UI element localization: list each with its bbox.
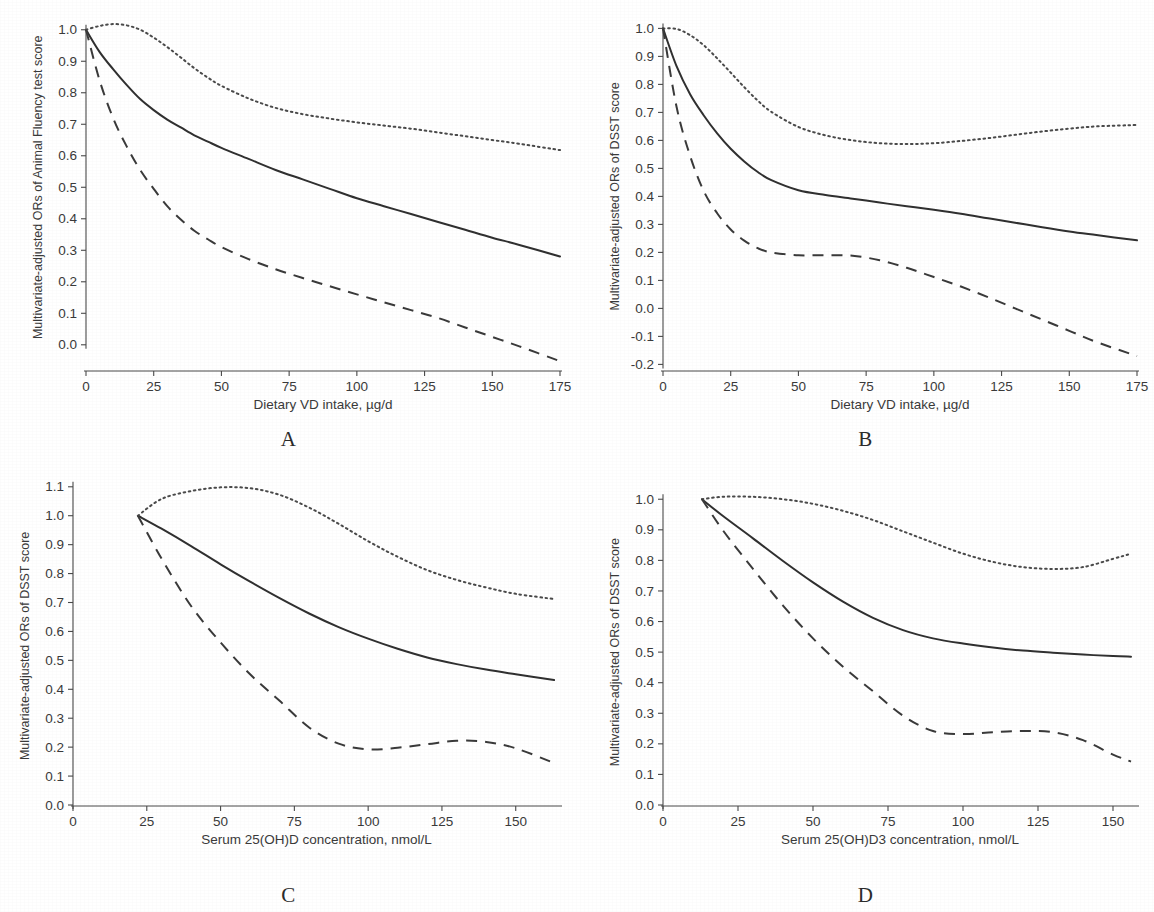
y-tick-label: 1.0 <box>635 492 654 507</box>
curve-dotted <box>702 496 1131 568</box>
x-tick-label: 0 <box>659 814 667 829</box>
y-tick-label: 0.9 <box>635 49 654 64</box>
y-tick-label: 0.7 <box>635 105 654 120</box>
panel-a-plot: 0.00.10.20.30.40.50.60.70.80.91.00255075… <box>0 0 577 414</box>
y-tick-label: 0.3 <box>45 711 64 726</box>
y-axis-title: Multivariate-adjusted ORs of DSST score <box>18 532 32 760</box>
panel-b: -0.2-0.10.00.10.20.30.40.50.60.70.80.91.… <box>577 0 1154 456</box>
y-tick-label: 1.0 <box>58 22 77 37</box>
y-tick-label: 0.7 <box>45 595 64 610</box>
curve-dashed <box>702 499 1131 761</box>
x-axis-title: Dietary VD intake, µg/d <box>830 397 969 412</box>
y-axis-title: Multivariate-adjusted ORs of DSST score <box>608 538 622 766</box>
y-tick-label: 0.1 <box>635 273 654 288</box>
y-tick-label: 0.4 <box>45 682 64 697</box>
panel-d-plot: 0.00.10.20.30.40.50.60.70.80.91.00255075… <box>577 456 1154 870</box>
x-tick-label: 75 <box>282 379 297 394</box>
x-tick-label: 50 <box>213 814 228 829</box>
x-tick-label: 0 <box>82 379 90 394</box>
x-tick-label: 150 <box>1058 379 1081 394</box>
x-tick-label: 25 <box>723 379 738 394</box>
x-tick-label: 150 <box>1102 814 1125 829</box>
y-tick-label: 0.9 <box>45 537 64 552</box>
figure-panel-grid: 0.00.10.20.30.40.50.60.70.80.91.00255075… <box>0 0 1154 912</box>
y-tick-label: 0.2 <box>635 736 654 751</box>
y-tick-label: 0.6 <box>45 624 64 639</box>
x-axis-title: Dietary VD intake, µg/d <box>253 397 392 412</box>
x-axis-title: Serum 25(OH)D3 concentration, nmol/L <box>781 832 1019 847</box>
y-tick-label: -0.2 <box>631 357 654 372</box>
y-tick-label: 0.6 <box>635 614 654 629</box>
x-axis-title: Serum 25(OH)D concentration, nmol/L <box>201 832 432 847</box>
y-tick-label: 1.0 <box>45 508 64 523</box>
x-tick-label: 125 <box>1027 814 1050 829</box>
y-tick-label: 0.5 <box>58 180 77 195</box>
y-tick-label: 0.9 <box>635 522 654 537</box>
y-tick-label: -0.1 <box>631 329 654 344</box>
y-axis-title: Multivariate-adjusted ORs of Animal Flue… <box>31 35 45 339</box>
x-tick-label: 100 <box>346 379 369 394</box>
x-tick-label: 50 <box>214 379 229 394</box>
y-tick-label: 0.6 <box>635 133 654 148</box>
x-tick-label: 150 <box>504 814 527 829</box>
curve-solid <box>138 516 554 680</box>
y-tick-label: 0.4 <box>635 189 654 204</box>
y-tick-label: 0.3 <box>635 217 654 232</box>
y-tick-label: 0.3 <box>635 706 654 721</box>
y-tick-label: 0.0 <box>45 798 64 813</box>
x-tick-label: 175 <box>549 379 572 394</box>
x-tick-label: 50 <box>791 379 806 394</box>
x-tick-label: 0 <box>69 814 77 829</box>
curve-dashed <box>86 30 560 361</box>
x-tick-label: 125 <box>990 379 1013 394</box>
y-tick-label: 0.5 <box>45 653 64 668</box>
x-tick-label: 125 <box>413 379 436 394</box>
curve-dotted <box>138 487 554 599</box>
x-tick-label: 75 <box>880 814 895 829</box>
y-tick-label: 0.7 <box>635 584 654 599</box>
panel-c-letter: C <box>0 883 577 908</box>
y-tick-label: 0.5 <box>635 645 654 660</box>
y-tick-label: 0.0 <box>635 798 654 813</box>
x-tick-label: 75 <box>287 814 302 829</box>
panel-a-letter: A <box>0 427 577 452</box>
x-tick-label: 50 <box>805 814 820 829</box>
y-tick-label: 0.8 <box>58 85 77 100</box>
y-tick-label: 0.2 <box>45 740 64 755</box>
curve-solid <box>86 30 560 257</box>
curve-solid <box>702 499 1131 656</box>
y-tick-label: 0.4 <box>58 211 77 226</box>
curve-dotted <box>663 28 1137 144</box>
panel-d: 0.00.10.20.30.40.50.60.70.80.91.00255075… <box>577 456 1154 912</box>
x-tick-label: 100 <box>952 814 975 829</box>
x-tick-label: 25 <box>730 814 745 829</box>
y-tick-label: 0.6 <box>58 148 77 163</box>
y-tick-label: 0.5 <box>635 161 654 176</box>
panel-a: 0.00.10.20.30.40.50.60.70.80.91.00255075… <box>0 0 577 456</box>
y-tick-label: 0.7 <box>58 117 77 132</box>
y-tick-label: 0.2 <box>58 274 77 289</box>
panel-d-letter: D <box>577 883 1154 908</box>
y-tick-label: 0.9 <box>58 54 77 69</box>
curve-solid <box>663 28 1137 240</box>
x-tick-label: 150 <box>481 379 504 394</box>
curve-dotted <box>86 24 560 150</box>
y-tick-label: 0.8 <box>635 77 654 92</box>
y-tick-label: 0.1 <box>58 306 77 321</box>
x-tick-label: 25 <box>139 814 154 829</box>
y-tick-label: 0.8 <box>635 553 654 568</box>
y-axis-title: Multivariate-adjusted ORs of DSST score <box>608 82 622 310</box>
x-tick-label: 75 <box>859 379 874 394</box>
x-tick-label: 100 <box>357 814 380 829</box>
y-tick-label: 0.1 <box>635 767 654 782</box>
y-tick-label: 0.0 <box>58 337 77 352</box>
x-tick-label: 100 <box>923 379 946 394</box>
y-tick-label: 0.0 <box>635 301 654 316</box>
y-tick-label: 0.1 <box>45 769 64 784</box>
x-tick-label: 25 <box>146 379 161 394</box>
y-tick-label: 0.2 <box>635 245 654 260</box>
y-tick-label: 0.8 <box>45 566 64 581</box>
y-tick-label: 0.4 <box>635 675 654 690</box>
y-tick-label: 1.1 <box>45 479 64 494</box>
y-tick-label: 0.3 <box>58 243 77 258</box>
